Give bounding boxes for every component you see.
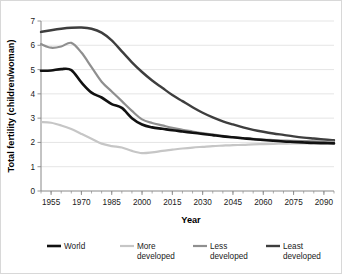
x-axis-title: Year: [181, 215, 201, 225]
series-lines: [41, 28, 334, 154]
series-line-less-developed: [41, 43, 334, 142]
x-tick-label-2060: 2060: [254, 198, 273, 207]
x-tick-label-1955: 1955: [42, 198, 61, 207]
y-tick-label-2: 2: [30, 138, 35, 147]
gridlines: [41, 21, 334, 167]
x-tick-label-1970: 1970: [72, 198, 91, 207]
y-tick-label-4: 4: [30, 90, 35, 99]
x-axis-tick-labels: 1955197019852000201520302045206020752090: [42, 198, 333, 207]
legend-item-less[interactable]: Lessdeveloped: [193, 242, 248, 261]
y-axis-title: Total fertility (children/woman): [6, 39, 16, 172]
y-tick-label-6: 6: [30, 41, 35, 50]
x-tick-label-2015: 2015: [163, 198, 182, 207]
legend-label-line1: World: [64, 242, 86, 251]
y-tick-label-5: 5: [30, 66, 35, 75]
x-tick-label-2000: 2000: [133, 198, 152, 207]
x-tick-label-2090: 2090: [315, 198, 334, 207]
y-axis-tick-labels: 01234567: [30, 17, 35, 196]
y-tick-label-7: 7: [30, 17, 35, 26]
x-axis-ticks: [51, 191, 324, 195]
legend-label-line1: Least: [283, 242, 304, 251]
series-line-world: [41, 69, 334, 144]
chart-legend: WorldMoredevelopedLessdevelopedLeastdeve…: [47, 242, 321, 261]
x-tick-label-2045: 2045: [224, 198, 243, 207]
legend-label-line2: developed: [210, 252, 248, 261]
legend-item-world[interactable]: World: [47, 242, 86, 251]
legend-item-more[interactable]: Moredeveloped: [120, 242, 175, 261]
x-tick-label-2030: 2030: [194, 198, 213, 207]
y-axis-ticks: [38, 21, 42, 191]
series-line-least-developed: [41, 28, 334, 141]
legend-label-line1: More: [137, 242, 156, 251]
x-tick-label-2075: 2075: [284, 198, 303, 207]
y-tick-label-3: 3: [30, 114, 35, 123]
y-tick-label-1: 1: [30, 163, 35, 172]
fertility-line-chart: 01234567 1955197019852000201520302045206…: [1, 1, 342, 274]
legend-item-least[interactable]: Leastdeveloped: [266, 242, 321, 261]
legend-label-line2: developed: [137, 252, 175, 261]
legend-label-line2: developed: [283, 252, 321, 261]
series-line-more-developed: [41, 122, 334, 153]
x-tick-label-1985: 1985: [103, 198, 122, 207]
legend-label-line1: Less: [210, 242, 227, 251]
chart-figure: 01234567 1955197019852000201520302045206…: [0, 0, 342, 274]
y-tick-label-0: 0: [30, 187, 35, 196]
